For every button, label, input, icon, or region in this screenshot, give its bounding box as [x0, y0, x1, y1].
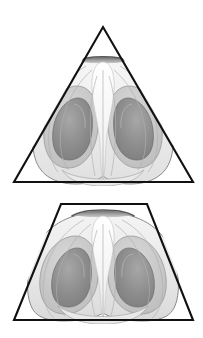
top-panel [14, 27, 193, 186]
figure-root [0, 0, 203, 338]
figure-canvas [0, 0, 203, 338]
bottom-panel [14, 204, 193, 324]
surface-plot-triangle [32, 57, 173, 186]
figure-caption [4, 329, 199, 338]
